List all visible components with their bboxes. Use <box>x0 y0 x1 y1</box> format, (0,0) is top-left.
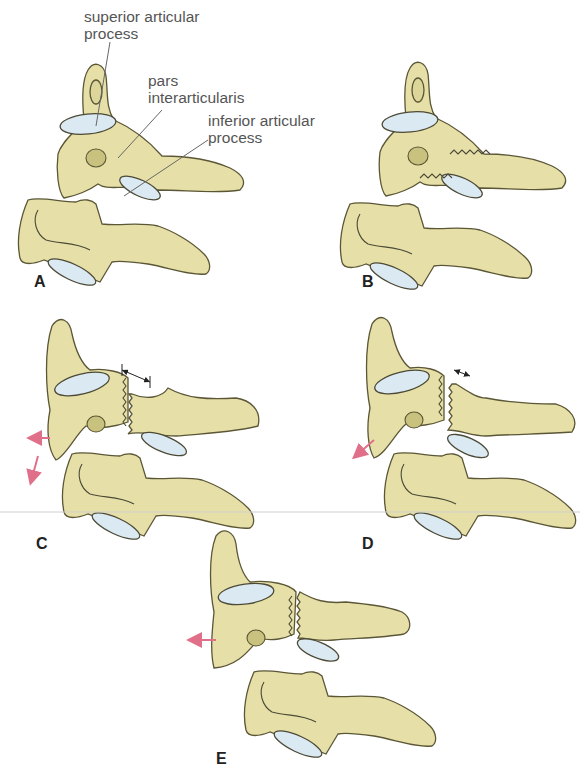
label-inferior-line2: process <box>208 129 315 146</box>
panel-b-illustration <box>340 62 565 294</box>
label-superior-articular-process: superior articular process <box>84 8 199 42</box>
label-inferior-articular-process: inferior articular process <box>208 112 315 146</box>
label-inferior-line1: inferior articular <box>208 112 315 129</box>
label-pars-line2: interarticularis <box>148 89 244 106</box>
panel-letter-c: C <box>36 535 48 553</box>
label-pars-line1: pars <box>148 72 244 89</box>
panel-c-illustration <box>32 320 259 545</box>
panel-letter-b: B <box>362 273 374 291</box>
panel-letter-a: A <box>34 273 46 291</box>
label-pars-interarticularis: pars interarticularis <box>148 72 244 106</box>
panel-letter-d: D <box>362 535 374 553</box>
panel-e-illustration <box>194 531 436 762</box>
label-superior-line1: superior articular <box>84 8 199 25</box>
panel-d-illustration <box>358 318 576 545</box>
label-superior-line2: process <box>84 25 199 42</box>
panel-letter-e: E <box>216 750 227 768</box>
